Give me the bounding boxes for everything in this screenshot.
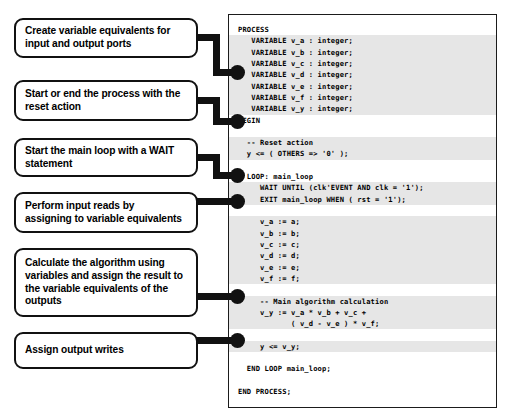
code-line: EXIT main_loop WHEN ( rst = '1'); <box>229 194 496 205</box>
connector-5-endpoint-dot <box>230 289 245 304</box>
code-line: VARIABLE v_f : integer; <box>229 92 496 103</box>
code-line: VARIABLE v_a : integer; <box>229 35 496 46</box>
code-line: VARIABLE v_d : integer; <box>229 69 496 80</box>
code-line: y <= ( OTHERS => '0' ); <box>229 148 496 159</box>
code-line: PROCESS <box>229 24 496 35</box>
code-line: END LOOP main_loop; <box>229 363 496 374</box>
code-line: v_a := a; <box>229 216 496 227</box>
code-line <box>229 160 496 171</box>
annotation-box-create-variable-equivalents: Create variable equivalents for input an… <box>14 18 198 58</box>
connector-2-endpoint-dot <box>230 114 245 129</box>
annotation-box-calculate-algorithm: Calculate the algorithm using variables … <box>14 248 198 317</box>
code-line: v_d := d; <box>229 250 496 261</box>
annotation-text-wait-statement: Start the main loop with a WAIT statemen… <box>16 145 183 170</box>
code-line: BEGIN <box>229 115 496 126</box>
code-line: WAIT UNTIL (clk'EVENT AND clk = '1'); <box>229 182 496 193</box>
code-line: ( v_d - v_e ) * v_f; <box>229 318 496 329</box>
diagram-canvas: Create variable equivalents for input an… <box>0 0 510 419</box>
code-line: LOOP: main_loop <box>229 171 496 182</box>
code-line: v_b := b; <box>229 228 496 239</box>
annotation-box-reset-action: Start or end the process with the reset … <box>14 80 198 121</box>
connector-6-endpoint-dot <box>230 333 245 348</box>
code-line: v_f := f; <box>229 273 496 284</box>
annotation-box-input-reads: Perform input reads by assigning to vari… <box>14 192 198 233</box>
code-line: END PROCESS; <box>229 386 496 397</box>
code-line <box>229 352 496 363</box>
connector-4-endpoint-dot <box>230 194 245 209</box>
code-listing: PROCESS VARIABLE v_a : integer; VARIABLE… <box>229 15 496 397</box>
code-line <box>229 126 496 137</box>
code-line: v_c := c; <box>229 239 496 250</box>
annotation-box-wait-statement: Start the main loop with a WAIT statemen… <box>14 138 198 177</box>
code-line <box>229 284 496 295</box>
code-line: VARIABLE v_c : integer; <box>229 58 496 69</box>
code-line <box>229 205 496 216</box>
code-line: y <= v_y; <box>229 341 496 352</box>
code-line: -- Main algorithm calculation <box>229 296 496 307</box>
code-line <box>229 375 496 386</box>
code-line: v_y := v_a * v_b + v_c + <box>229 307 496 318</box>
code-line <box>229 329 496 340</box>
annotation-text-reset-action: Start or end the process with the reset … <box>16 88 189 113</box>
annotation-text-output-writes: Assign output writes <box>16 344 133 357</box>
code-line: VARIABLE v_b : integer; <box>229 47 496 58</box>
code-line: -- Reset action <box>229 137 496 148</box>
code-panel: PROCESS VARIABLE v_a : integer; VARIABLE… <box>228 14 497 408</box>
connector-3-endpoint-dot <box>230 168 245 183</box>
connector-1-endpoint-dot <box>230 65 245 80</box>
code-line: v_e := e; <box>229 262 496 273</box>
annotation-text-input-reads: Perform input reads by assigning to vari… <box>16 200 191 225</box>
annotation-text-create-variable-equivalents: Create variable equivalents for input an… <box>16 25 179 50</box>
annotation-text-calculate-algorithm: Calculate the algorithm using variables … <box>16 257 192 307</box>
code-line: VARIABLE v_e : integer; <box>229 81 496 92</box>
code-line: VARIABLE v_y : integer; <box>229 103 496 114</box>
annotation-box-output-writes: Assign output writes <box>14 332 198 369</box>
